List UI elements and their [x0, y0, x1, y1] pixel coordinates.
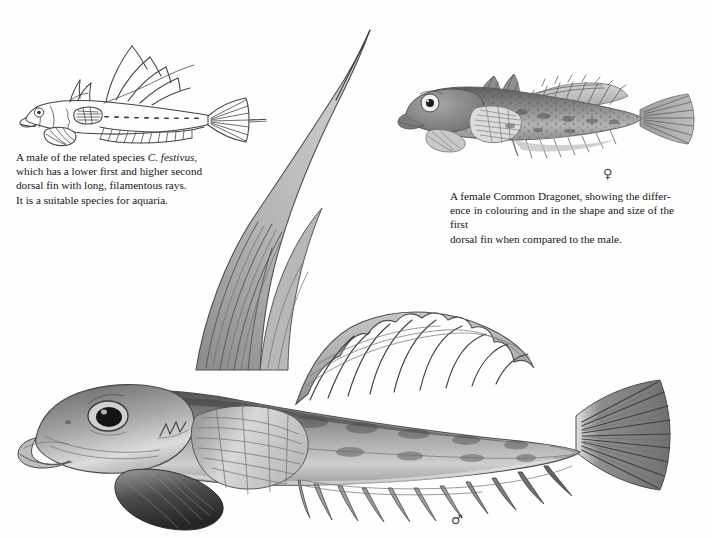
- caption-female-dragonet: A female Common Dragonet, showing the di…: [450, 189, 674, 246]
- caption-line: A male of the related species C. festivu…: [16, 150, 228, 164]
- caption-line: It is a suitable species for aquaria.: [16, 193, 228, 207]
- female-sex-symbol-icon: ♀: [603, 166, 613, 181]
- plate-page: .ln{fill:none;stroke:#434343;stroke-widt…: [0, 0, 712, 538]
- caption-line: which has a lower first and higher secon…: [16, 164, 228, 178]
- caption-line: dorsal fin when compared to the male.: [450, 232, 674, 246]
- male-sex-symbol-icon: ♂: [451, 512, 463, 527]
- caption-line: dorsal fin with long, filamentous rays.: [16, 178, 228, 192]
- caption-line: A female Common Dragonet, showing the di…: [450, 189, 674, 203]
- caption-line: ence in colouring and in the shape and s…: [450, 203, 674, 231]
- species-name-italic: C. festivus,: [148, 151, 197, 163]
- figure-male-common-dragonet: .r{fill:none;stroke:#5b5b5b;stroke-width…: [10, 18, 712, 530]
- caption-c-festivus: A male of the related species C. festivu…: [16, 150, 228, 207]
